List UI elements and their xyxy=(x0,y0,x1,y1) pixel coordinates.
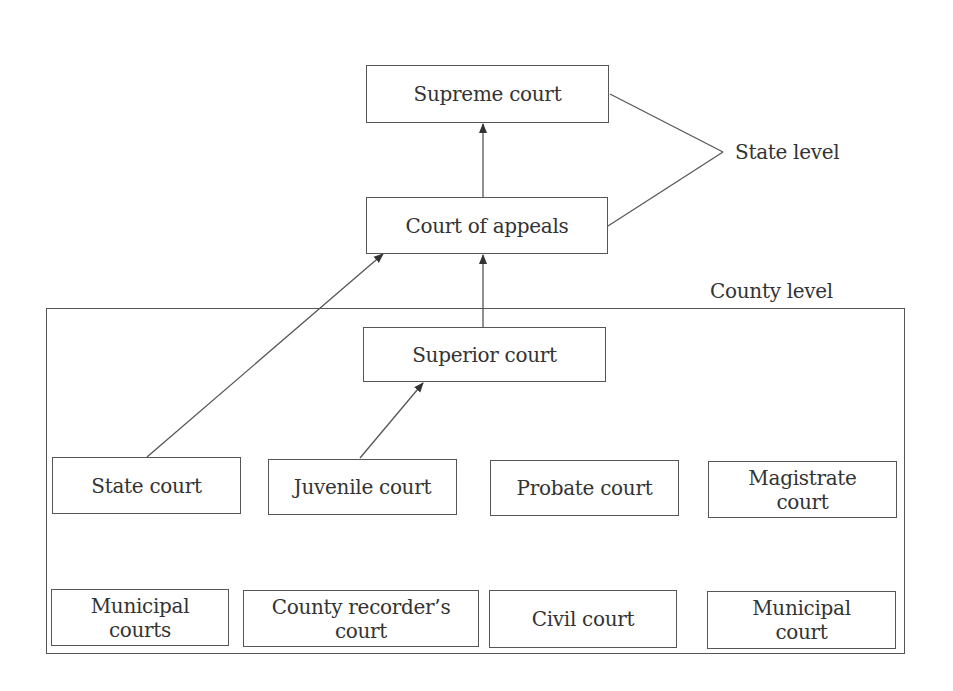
magistrate-court-box: Magistrate court xyxy=(708,461,897,518)
court-of-appeals-box: Court of appeals xyxy=(366,197,608,254)
supreme-court-box: Supreme court xyxy=(366,65,609,123)
civil-court-box: Civil court xyxy=(489,590,677,648)
superior-court-box: Superior court xyxy=(363,327,606,382)
state-court-box: State court xyxy=(52,457,241,514)
municipal-court-box: Municipal court xyxy=(707,591,896,649)
state-level-label: State level xyxy=(735,140,839,164)
county-level-label: County level xyxy=(710,279,833,303)
probate-court-box: Probate court xyxy=(490,460,679,516)
state-level-bracket-bottom xyxy=(608,152,723,226)
juvenile-court-box: Juvenile court xyxy=(268,459,457,515)
municipal-courts-box: Municipal courts xyxy=(51,589,229,646)
state-level-bracket-top xyxy=(610,94,723,152)
county-recorders-court-box: County recorder’s court xyxy=(243,590,479,647)
